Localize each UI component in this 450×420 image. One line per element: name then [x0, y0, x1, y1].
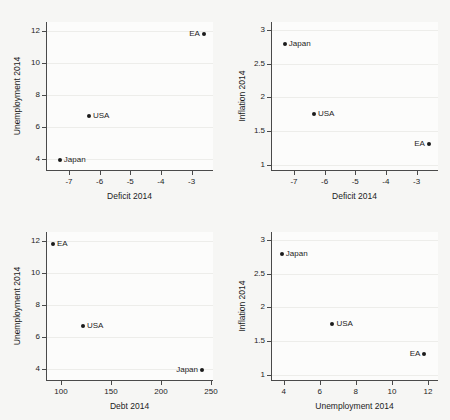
x-axis-line	[46, 380, 213, 381]
data-point-marker[interactable]	[422, 352, 426, 356]
x-axis-tick-label: 250	[204, 388, 217, 396]
data-point-marker[interactable]	[202, 32, 206, 36]
gridline-horizontal	[271, 165, 438, 166]
y-axis-tick-label: 1.5	[243, 127, 265, 135]
data-point-label: Japan	[176, 366, 198, 374]
data-point-label: Japan	[289, 40, 311, 48]
data-point-marker[interactable]	[280, 252, 284, 256]
y-axis-tick	[42, 305, 46, 306]
y-axis-tick	[267, 131, 271, 132]
data-point-label: EA	[189, 30, 200, 38]
y-axis-tick	[42, 241, 46, 242]
x-axis-line	[271, 380, 438, 381]
x-axis-tick	[356, 381, 357, 385]
x-axis-title: Deficit 2014	[107, 192, 152, 201]
y-axis-tick-label: 3	[243, 236, 265, 244]
gridline-horizontal	[46, 31, 213, 32]
x-axis-tick	[417, 171, 418, 175]
x-axis-tick-label: 10	[388, 388, 397, 396]
y-axis-tick-label: 3	[243, 26, 265, 34]
gridline-horizontal	[271, 97, 438, 98]
x-axis-tick	[284, 381, 285, 385]
gridline-horizontal	[46, 337, 213, 338]
scatter-panel: 11.522.534681012Unemployment 2014Inflati…	[225, 210, 450, 420]
data-point-label: USA	[318, 110, 334, 118]
gridline-horizontal	[271, 64, 438, 65]
x-axis-tick-label: -6	[96, 178, 103, 186]
data-point-marker[interactable]	[330, 322, 334, 326]
x-axis-tick-label: -7	[290, 178, 297, 186]
data-point-marker[interactable]	[427, 142, 431, 146]
x-axis-tick-label: 4	[281, 388, 285, 396]
x-axis-tick-label: 8	[354, 388, 358, 396]
gridline-horizontal	[46, 127, 213, 128]
data-point-marker[interactable]	[81, 324, 85, 328]
y-axis-line	[271, 22, 272, 170]
x-axis-tick-label: 200	[154, 388, 167, 396]
gridline-horizontal	[271, 131, 438, 132]
x-axis-tick-label: -7	[65, 178, 72, 186]
y-axis-title: Inflation 2014	[238, 280, 247, 331]
data-point-label: Japan	[286, 250, 308, 258]
x-axis-tick	[161, 171, 162, 175]
y-axis-title: Unemployment 2014	[13, 267, 22, 345]
x-axis-tick	[428, 381, 429, 385]
x-axis-tick-label: -4	[157, 178, 164, 186]
y-axis-tick	[42, 63, 46, 64]
scatter-panel: 11.522.53-7-6-5-4-3Deficit 2014Inflation…	[225, 0, 450, 210]
y-axis-tick-label: 1	[243, 371, 265, 379]
gridline-horizontal	[271, 307, 438, 308]
y-axis-title: Inflation 2014	[238, 70, 247, 121]
data-point-label: EA	[57, 240, 68, 248]
y-axis-tick	[42, 159, 46, 160]
gridline-horizontal	[271, 375, 438, 376]
y-axis-tick	[42, 273, 46, 274]
x-axis-tick-label: -3	[188, 178, 195, 186]
data-point-marker[interactable]	[312, 112, 316, 116]
y-axis-line	[271, 232, 272, 380]
x-axis-tick-label: -5	[127, 178, 134, 186]
gridline-horizontal	[271, 240, 438, 241]
scatter-panel: 4681012-7-6-5-4-3Deficit 2014Unemploymen…	[0, 0, 225, 210]
data-point-marker[interactable]	[200, 368, 204, 372]
data-point-label: EA	[414, 140, 425, 148]
x-axis-tick	[192, 171, 193, 175]
figure-canvas: 4681012-7-6-5-4-3Deficit 2014Unemploymen…	[0, 0, 450, 420]
y-axis-tick-label: 1.5	[243, 337, 265, 345]
x-axis-tick	[211, 381, 212, 385]
y-axis-tick-label: 12	[18, 27, 40, 35]
x-axis-tick	[386, 171, 387, 175]
data-point-marker[interactable]	[58, 158, 62, 162]
data-point-label: EA	[410, 350, 421, 358]
y-axis-tick	[42, 369, 46, 370]
y-axis-line	[46, 232, 47, 380]
x-axis-tick	[130, 171, 131, 175]
data-point-label: Japan	[64, 156, 86, 164]
y-axis-tick	[42, 127, 46, 128]
y-axis-tick	[267, 307, 271, 308]
y-axis-title: Unemployment 2014	[13, 57, 22, 135]
plot-area	[46, 22, 213, 170]
y-axis-tick-label: 12	[18, 237, 40, 245]
scatter-panel: 4681012100150200250Debt 2014Unemployment…	[0, 210, 225, 420]
x-axis-tick-label: 150	[104, 388, 117, 396]
y-axis-tick-label: 2.5	[243, 270, 265, 278]
data-point-marker[interactable]	[87, 114, 91, 118]
x-axis-tick	[69, 171, 70, 175]
y-axis-tick	[267, 341, 271, 342]
x-axis-tick-label: -5	[352, 178, 359, 186]
y-axis-tick	[267, 64, 271, 65]
x-axis-tick	[320, 381, 321, 385]
y-axis-line	[46, 22, 47, 170]
x-axis-tick-label: -6	[321, 178, 328, 186]
data-point-marker[interactable]	[51, 242, 55, 246]
y-axis-tick-label: 2.5	[243, 60, 265, 68]
x-axis-tick	[392, 381, 393, 385]
x-axis-title: Debt 2014	[110, 402, 149, 411]
x-axis-tick	[294, 171, 295, 175]
data-point-marker[interactable]	[283, 42, 287, 46]
y-axis-tick	[42, 95, 46, 96]
x-axis-tick	[61, 381, 62, 385]
y-axis-tick	[267, 165, 271, 166]
x-axis-tick-label: -4	[382, 178, 389, 186]
